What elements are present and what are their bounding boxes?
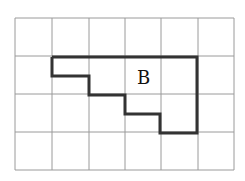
shape-b-label: B bbox=[137, 67, 150, 88]
grid-diagram: B bbox=[0, 0, 245, 181]
